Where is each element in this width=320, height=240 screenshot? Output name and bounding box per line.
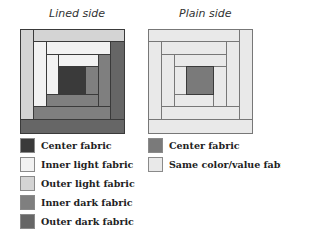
swatch-outer-dark-fabric [20,214,35,229]
lined-side-block [20,29,125,134]
plain-strip-right-2 [226,41,240,107]
legend-label: Same color/value fabrics [169,159,281,170]
plain-side-block [148,29,253,134]
center-square [58,66,86,95]
legend-item-plain-center: Center fabric [148,137,240,153]
legend-label: Inner dark fabric [41,197,133,208]
plain-strip-bottom-1 [174,94,214,107]
plain-strip-left-outer [148,41,162,120]
legend-label: Inner light fabric [41,159,133,170]
plain-strip-right-outer [239,29,253,120]
plain-center-square [186,66,214,95]
swatch-inner-dark-fabric [20,195,35,210]
legend-label: Center fabric [169,140,240,151]
legend-label: Outer dark fabric [41,216,134,227]
legend-item-outer-light: Outer light fabric [20,175,135,191]
plain-strip-top-2 [161,41,227,55]
swatch-center-fabric [20,138,35,153]
legend-item-outer-dark: Outer dark fabric [20,213,134,229]
inner-dark-strip-bottom-2 [33,106,111,120]
plain-strip-right-1 [213,66,227,107]
inner-light-strip-top-2 [46,41,111,55]
swatch-inner-light-fabric [20,157,35,172]
legend-item-inner-light: Inner light fabric [20,156,133,172]
swatch-plain-center-fabric [148,138,163,153]
legend-item-same-color: Same color/value fabrics [148,156,281,172]
legend-label: Center fabric [41,140,112,151]
legend-label: Outer light fabric [41,178,135,189]
outer-dark-strip-bottom [20,119,125,134]
inner-dark-strip-right-2 [98,54,111,107]
plain-side-title: Plain side [179,7,232,20]
plain-strip-left-2 [161,54,175,107]
legend-item-center: Center fabric [20,137,112,153]
lined-side-title: Lined side [49,7,105,20]
plain-strip-bottom-outer [148,119,253,134]
inner-light-strip-left-2 [33,41,47,107]
legend-item-inner-dark: Inner dark fabric [20,194,133,210]
swatch-outer-light-fabric [20,176,35,191]
swatch-same-color-fabrics [148,157,163,172]
inner-dark-strip-bottom-1 [46,94,99,107]
inner-dark-strip-right-1 [85,66,99,95]
outer-light-strip-left [20,29,34,120]
plain-strip-bottom-2 [161,106,240,120]
outer-dark-strip-right [110,41,125,120]
